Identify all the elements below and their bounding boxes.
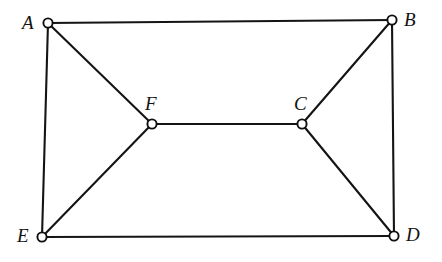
vertices-layer xyxy=(37,15,398,241)
graph-edge-b-d xyxy=(392,20,394,236)
vertex-label-f: F xyxy=(145,94,157,113)
graph-edge-e-f xyxy=(42,124,152,237)
vertex-label-b: B xyxy=(404,10,416,29)
graph-vertex-f xyxy=(147,119,156,128)
graph-vertex-a xyxy=(43,18,52,27)
graph-edge-a-e xyxy=(42,23,48,237)
vertex-label-e: E xyxy=(17,226,29,245)
vertex-label-d: D xyxy=(406,225,420,244)
graph-edge-a-f xyxy=(48,23,152,124)
graph-vertex-e xyxy=(37,232,46,241)
graph-edge-b-c xyxy=(302,20,392,124)
graph-vertex-c xyxy=(297,119,306,128)
graph-canvas xyxy=(0,0,442,262)
graph-vertex-b xyxy=(387,15,396,24)
edges-layer xyxy=(42,20,394,237)
graph-edge-a-b xyxy=(48,20,392,23)
graph-edge-e-d xyxy=(42,236,394,237)
vertex-label-a: A xyxy=(22,13,34,32)
graph-figure: ABCDEF xyxy=(0,0,442,262)
graph-edge-c-d xyxy=(302,124,394,236)
vertex-label-c: C xyxy=(294,94,307,113)
graph-vertex-d xyxy=(389,231,398,240)
